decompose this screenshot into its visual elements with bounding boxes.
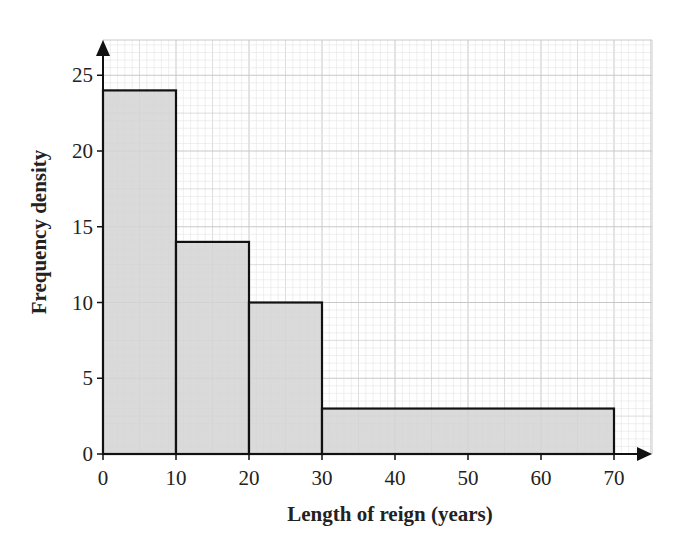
histogram-bar (322, 409, 614, 454)
x-tick-label: 0 (98, 466, 109, 490)
y-axis-title: Frequency density (27, 149, 51, 314)
histogram-bar (176, 242, 249, 454)
y-tick-label: 0 (83, 442, 94, 466)
y-tick-label: 10 (72, 291, 93, 315)
y-tick-label: 20 (72, 139, 93, 163)
y-tick-label: 5 (83, 366, 94, 390)
x-tick-label: 40 (385, 466, 406, 490)
x-axis-arrow-icon (637, 447, 652, 461)
x-axis-title: Length of reign (years) (287, 502, 493, 526)
histogram-bar (249, 303, 322, 455)
x-tick-label: 30 (312, 466, 333, 490)
histogram-bar (103, 90, 176, 454)
x-tick-label: 70 (604, 466, 625, 490)
x-tick-label: 60 (531, 466, 552, 490)
histogram-chart: 0102030405060700510152025 Length of reig… (0, 0, 675, 552)
x-tick-label: 20 (239, 466, 260, 490)
y-axis-arrow-icon (96, 40, 110, 56)
y-tick-label: 15 (72, 215, 93, 239)
x-tick-label: 10 (166, 466, 187, 490)
x-tick-label: 50 (458, 466, 479, 490)
y-tick-label: 25 (72, 63, 93, 87)
